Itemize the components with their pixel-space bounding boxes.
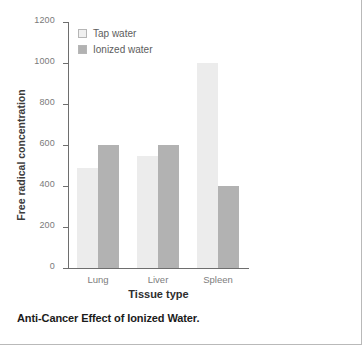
figure-border-bottom (0, 344, 362, 345)
x-axis-line (68, 268, 249, 269)
y-axis-tick-label: 800 (39, 97, 55, 107)
bar-lung-ionized-water (98, 145, 119, 268)
y-axis-tick-label: 400 (39, 179, 55, 189)
y-axis-tick-label: 600 (39, 138, 55, 148)
x-axis-category-label: Liver (128, 274, 188, 285)
plot-area: 020040060080010001200 LungLiverSpleen (68, 22, 248, 268)
bar-liver-ionized-water (158, 145, 179, 268)
y-axis-tick-label: 1200 (34, 15, 55, 25)
bar-spleen-ionized-water (218, 186, 239, 268)
x-axis-category-label: Lung (68, 274, 128, 285)
bar-lung-tap-water (77, 168, 98, 268)
y-axis-tick-label: 0 (50, 261, 55, 271)
legend-label: Tap water (93, 28, 136, 39)
x-axis-category-label: Spleen (188, 274, 248, 285)
figure-caption: Anti-Cancer Effect of Ionized Water. (17, 312, 199, 324)
y-axis-tick: 400 (63, 186, 68, 187)
y-axis-line (68, 22, 69, 269)
legend-item-tap-water: Tap water (78, 26, 152, 40)
y-axis-tick: 800 (63, 104, 68, 105)
legend-swatch-icon (78, 29, 87, 38)
legend: Tap water Ionized water (78, 26, 152, 58)
legend-label: Ionized water (93, 44, 152, 55)
y-axis-tick: 600 (63, 145, 68, 146)
legend-swatch-icon (78, 45, 87, 54)
y-axis-tick-label: 1000 (34, 56, 55, 66)
legend-item-ionized-water: Ionized water (78, 42, 152, 56)
y-axis-tick-label: 200 (39, 220, 55, 230)
y-axis-tick: 1200 (63, 22, 68, 23)
figure-container: Free radical concentration 0200400600800… (0, 0, 362, 358)
x-axis-title: Tissue type (68, 288, 249, 300)
bar-spleen-tap-water (197, 63, 218, 268)
bar-liver-tap-water (137, 156, 158, 268)
y-axis-tick: 200 (63, 227, 68, 228)
y-axis-tick: 1000 (63, 63, 68, 64)
y-axis-title-text: Free radical concentration (15, 89, 27, 220)
y-axis-title: Free radical concentration (14, 70, 28, 240)
y-axis-tick: 0 (63, 268, 68, 269)
